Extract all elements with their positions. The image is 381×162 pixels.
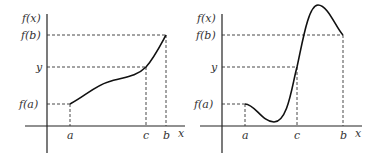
c-label: c: [143, 129, 149, 142]
b-label: b: [340, 129, 347, 142]
function-curve: [245, 5, 343, 122]
fa-label: f(a): [18, 98, 38, 111]
fb-label: f(b): [195, 29, 216, 42]
fa-label: f(a): [193, 98, 213, 111]
left-panel: f(x) f(b) y f(a) a c b x: [18, 12, 185, 153]
y-axis-label: f(x): [21, 12, 41, 25]
ivt-diagram: f(x) f(b) y f(a) a c b x f(x) f(b) y f(a…: [0, 0, 381, 162]
a-label: a: [242, 129, 249, 142]
y-label: y: [210, 61, 218, 74]
right-panel: f(x) f(b) y f(a) a c b x: [193, 5, 362, 153]
fb-label: f(b): [20, 29, 41, 42]
x-axis-label: x: [355, 127, 362, 140]
b-label: b: [163, 129, 170, 142]
y-axis-label: f(x): [196, 12, 216, 25]
a-label: a: [67, 129, 74, 142]
c-label: c: [294, 129, 300, 142]
function-curve: [70, 35, 166, 104]
y-label: y: [35, 61, 43, 74]
x-axis-label: x: [178, 127, 185, 140]
